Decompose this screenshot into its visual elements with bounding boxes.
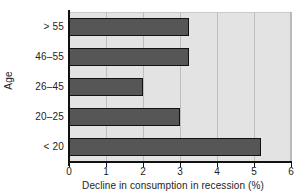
x-axis-tick-label: 3 [170, 166, 190, 178]
y-axis-tick-label: > 55 [43, 21, 64, 33]
x-axis-tick-label: 4 [207, 166, 227, 178]
bar-chart-figure: Age < 2020–2526–4546–55> 55 Decline in c… [0, 0, 306, 196]
x-axis-tick-label: 2 [133, 166, 153, 178]
x-axis-title: Decline in consumption in recession (%) [40, 180, 306, 192]
bar [69, 138, 261, 156]
bar [69, 108, 180, 126]
y-axis-spine [68, 10, 70, 166]
gridline [291, 12, 292, 162]
y-axis-tick-labels: < 2020–2526–4546–55> 55 [14, 12, 67, 162]
y-axis-tick-label: 20–25 [35, 111, 64, 123]
x-axis-tick-label: 1 [96, 166, 116, 178]
y-axis-title-text: Age [3, 71, 14, 89]
x-axis-tick-label: 5 [244, 166, 264, 178]
bar [69, 48, 189, 66]
plot-area [69, 12, 291, 162]
bar [69, 78, 143, 96]
x-axis-tick-label: 0 [59, 166, 79, 178]
x-axis-tick-label: 6 [281, 166, 301, 178]
y-axis-tick-label: 26–45 [35, 81, 64, 93]
y-axis-tick-label: 46–55 [35, 51, 64, 63]
y-axis-tick-label: < 20 [43, 141, 64, 153]
bar [69, 18, 189, 36]
